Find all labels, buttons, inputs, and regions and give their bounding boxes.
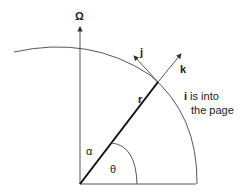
i-note-line2: the page [191, 104, 234, 116]
k-label: k [180, 63, 186, 75]
k-vector [158, 54, 181, 82]
diagram: Ω j k r i is into the page α θ [0, 0, 243, 194]
i-note: i is into [184, 90, 219, 102]
r-label: r [138, 93, 142, 105]
theta-label: θ [110, 163, 116, 175]
alpha-label: α [86, 145, 92, 157]
radius-line [80, 82, 158, 184]
omega-label: Ω [75, 10, 84, 22]
j-vector [134, 56, 158, 82]
j-label: j [140, 46, 143, 58]
